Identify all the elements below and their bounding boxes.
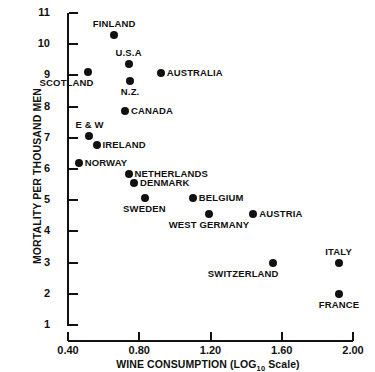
data-point-finland: [110, 31, 118, 39]
y-tick-9: [69, 74, 78, 76]
data-point-france: [335, 290, 343, 298]
x-tick-0.80: [138, 332, 140, 341]
x-tick-2.00: [352, 332, 354, 341]
y-tick-11: [69, 12, 78, 14]
data-label-canada: CANADA: [131, 106, 173, 116]
y-tick-4: [69, 230, 78, 232]
data-point-n-z: [126, 77, 134, 85]
x-tick-1.20: [210, 332, 212, 341]
x-tick-label-2.00: 2.00: [333, 345, 373, 356]
data-label-u-s-a: U.S.A: [116, 48, 142, 58]
data-point-norway: [75, 159, 83, 167]
data-point-denmark: [130, 179, 138, 187]
x-tick-1.60: [281, 332, 283, 341]
data-label-sweden: SWEDEN: [123, 204, 166, 214]
y-tick-8: [69, 106, 78, 108]
y-tick-label-11: 11: [28, 7, 50, 18]
data-label-ireland: IRELAND: [103, 140, 146, 150]
data-label-austria: AUSTRIA: [259, 209, 302, 219]
y-axis-title: MORTALITY PER THOUSAND MEN: [31, 51, 43, 301]
y-tick-10: [69, 43, 78, 45]
data-point-scotland: [84, 68, 92, 76]
y-tick-label-1: 1: [28, 319, 50, 330]
data-point-belgium: [189, 194, 197, 202]
x-tick-label-0.40: 0.40: [48, 345, 88, 356]
x-tick-label-1.60: 1.60: [262, 345, 302, 356]
x-axis-title-tail: Scale): [265, 358, 300, 370]
data-point-u-s-a: [125, 60, 133, 68]
y-tick-7: [69, 137, 78, 139]
x-axis-title-sub: 10: [257, 364, 266, 372]
data-label-n-z: N.Z.: [121, 87, 140, 97]
y-tick-1: [69, 324, 78, 326]
data-point-canada: [121, 107, 129, 115]
data-label-switzerland: SWITZERLAND: [208, 269, 279, 279]
data-label-norway: NORWAY: [85, 158, 128, 168]
data-label-west-germany: WEST GERMANY: [169, 220, 249, 230]
data-point-austria: [249, 210, 257, 218]
x-axis-title-main: WINE CONSUMPTION (LOG: [116, 358, 256, 370]
y-tick-3: [69, 262, 78, 264]
data-point-west-germany: [205, 210, 213, 218]
data-label-finland: FINLAND: [93, 19, 136, 29]
x-tick-0.40: [67, 332, 69, 341]
y-tick-label-10: 10: [28, 38, 50, 49]
data-label-denmark: DENMARK: [140, 178, 190, 188]
y-tick-2: [69, 293, 78, 295]
x-tick-label-1.20: 1.20: [191, 345, 231, 356]
data-label-scotland: SCOTLAND: [40, 78, 94, 88]
data-label-belgium: BELGIUM: [199, 193, 244, 203]
data-point-italy: [335, 259, 343, 267]
data-label-france: FRANCE: [319, 300, 359, 310]
data-label-australia: AUSTRALIA: [167, 68, 223, 78]
x-axis-title: WINE CONSUMPTION (LOG10 Scale): [48, 358, 368, 372]
x-tick-label-0.80: 0.80: [119, 345, 159, 356]
data-label-e-w: E & W: [75, 120, 103, 130]
data-point-netherlands: [125, 170, 133, 178]
data-point-switzerland: [269, 259, 277, 267]
scatter-plot-wine-mortality: 1110987654321 0.400.801.201.602.00 WINE …: [0, 0, 375, 372]
y-tick-6: [69, 168, 78, 170]
data-point-australia: [157, 69, 165, 77]
y-tick-5: [69, 199, 78, 201]
data-point-sweden: [141, 194, 149, 202]
data-point-e-w: [85, 132, 93, 140]
data-point-ireland: [93, 141, 101, 149]
data-label-italy: ITALY: [325, 247, 352, 257]
